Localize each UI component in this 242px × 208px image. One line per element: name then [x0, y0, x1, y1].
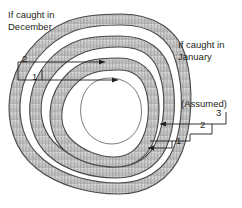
caption-if-caught-december: If caught in December [8, 9, 54, 32]
fish-scale-figure: If caught in December If caught in Janua… [0, 0, 242, 208]
right-label-ring-2: 2 [200, 120, 205, 130]
scale-focus [81, 78, 142, 144]
left-label-ring-2: 2 [22, 54, 27, 64]
right-label-ring-3: 3 [216, 108, 221, 118]
left-label-ring-1: 1 [32, 72, 37, 82]
caption-if-caught-january: If caught in January [178, 39, 224, 62]
right-label-ring-1: 1 [176, 136, 181, 146]
